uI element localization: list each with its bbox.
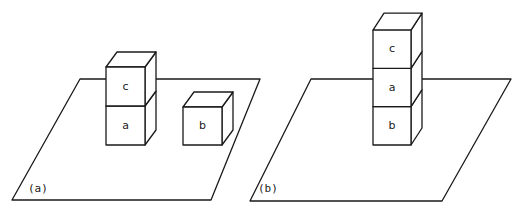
blocks-world-figure: acb (a) bac (b)	[0, 0, 518, 211]
block-label: a	[389, 81, 396, 94]
block-label: a	[122, 119, 129, 132]
block-stack: bac	[373, 13, 422, 145]
block-b: b	[183, 92, 233, 145]
block-label: c	[122, 80, 128, 93]
panel-b: bac (b)	[250, 13, 511, 201]
panel-b-caption: (b)	[258, 182, 278, 195]
block-stack: ac	[106, 52, 156, 145]
block-label: c	[389, 42, 395, 55]
panel-a: acb (a)	[12, 52, 260, 200]
block-c: c	[373, 13, 422, 68]
block-c: c	[106, 52, 156, 106]
block-label: b	[389, 119, 396, 132]
block-label: b	[199, 119, 206, 132]
panel-a-caption: (a)	[28, 182, 48, 195]
block-stack: b	[183, 92, 233, 145]
